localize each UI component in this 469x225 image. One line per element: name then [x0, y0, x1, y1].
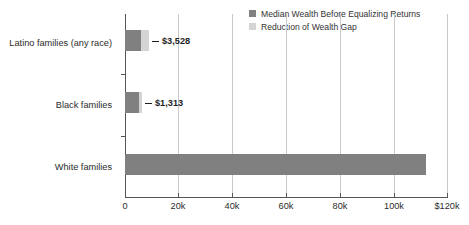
- bar-segment-median-wealth: [125, 154, 426, 175]
- y-axis-label-black: Black families: [56, 101, 112, 110]
- x-axis-tick-60k: [286, 193, 287, 198]
- x-axis-tick-40k: [232, 193, 233, 198]
- x-axis-tick-0: [125, 193, 126, 198]
- x-axis-label-40k: 40k: [225, 202, 240, 211]
- bar-segment-median-wealth: [125, 30, 141, 51]
- bar-segment-median-wealth: [125, 92, 139, 113]
- x-axis-label-60k: 60k: [279, 202, 294, 211]
- bar-segment-reduction-gap: [139, 92, 142, 113]
- leader-line: [152, 41, 159, 42]
- x-axis-tick-120k: [447, 193, 448, 198]
- x-axis-label-20k: 20k: [171, 202, 186, 211]
- x-axis-label-100k: 100k: [384, 202, 404, 211]
- x-axis-label-120k: $120k: [434, 202, 459, 211]
- x-axis-label-0: 0: [122, 202, 127, 211]
- bar-black-families[interactable]: [125, 92, 142, 113]
- x-axis-tick-80k: [340, 193, 341, 198]
- x-axis-tick-100k: [394, 193, 395, 198]
- bar-value-black: $1,313: [145, 99, 183, 108]
- x-axis-tick-20k: [178, 193, 179, 198]
- y-axis-label-white: White families: [55, 163, 112, 172]
- bar-segment-reduction-gap: [141, 30, 149, 51]
- y-axis-labels: Latino families (any race) Black familie…: [0, 0, 120, 225]
- bar-value-latino: $3,528: [152, 37, 190, 46]
- plot-area: $3,528 $1,313: [125, 14, 448, 197]
- x-axis-label-80k: 80k: [333, 202, 348, 211]
- bar-latino-families[interactable]: [125, 30, 149, 51]
- bar-white-families[interactable]: [125, 154, 426, 175]
- leader-line: [145, 103, 152, 104]
- y-axis-label-latino: Latino families (any race): [9, 39, 112, 48]
- gridline-120k: [447, 14, 448, 197]
